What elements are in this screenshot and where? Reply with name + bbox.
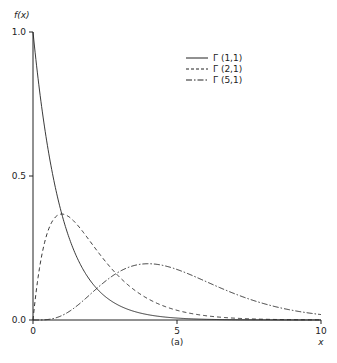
x-tick-label-5: 5 — [174, 326, 180, 336]
x-tick-label-10: 10 — [315, 326, 327, 336]
series-gamma-2-1 — [33, 214, 321, 320]
series-gamma-5-1 — [33, 264, 321, 320]
legend-label-3: Γ (5,1) — [213, 75, 242, 85]
legend: Γ (1,1) Γ (2,1) Γ (5,1) — [186, 53, 242, 85]
legend-label-1: Γ (1,1) — [213, 53, 242, 63]
x-tick-label-0: 0 — [30, 326, 36, 336]
y-axis-label: f(x) — [14, 10, 30, 20]
gamma-density-chart: f(x) 1.0 0.5 0.0 0 5 10 (a) x Γ (1,1) Γ … — [0, 0, 337, 363]
chart-caption: (a) — [171, 337, 184, 347]
y-tick-label-0: 0.0 — [12, 315, 27, 325]
x-axis-label: x — [317, 337, 324, 347]
y-tick-label-1: 1.0 — [12, 27, 27, 37]
axes — [29, 32, 321, 324]
series-gamma-1-1 — [33, 32, 321, 320]
y-tick-label-05: 0.5 — [12, 171, 26, 181]
legend-label-2: Γ (2,1) — [213, 64, 242, 74]
